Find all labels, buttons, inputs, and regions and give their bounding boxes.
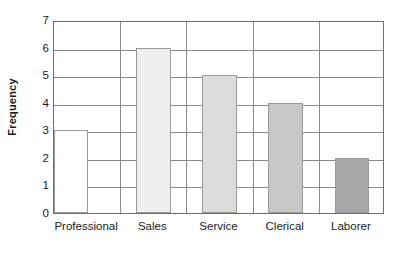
y-tick-label: 4 <box>31 98 49 110</box>
plot-area <box>53 21 384 214</box>
bar <box>202 75 236 213</box>
bar-chart: Frequency 01234567 ProfessionalSalesServ… <box>0 0 405 253</box>
x-tick-label: Service <box>199 217 237 235</box>
y-axis-title: Frequency <box>2 0 22 214</box>
bar <box>136 48 170 213</box>
bar-series <box>54 22 383 213</box>
y-tick-label: 7 <box>31 15 49 27</box>
bar <box>268 103 302 213</box>
y-tick-label: 1 <box>31 181 49 193</box>
y-tick-label: 5 <box>31 70 49 82</box>
y-tick-label: 6 <box>31 43 49 55</box>
y-tick-label: 0 <box>31 208 49 220</box>
y-tick-label: 3 <box>31 126 49 138</box>
y-axis-title-label: Frequency <box>6 78 18 135</box>
y-axis-tick-labels: 01234567 <box>28 0 49 253</box>
y-tick-label: 2 <box>31 153 49 165</box>
bar <box>54 130 88 213</box>
x-tick-label: Professional <box>54 217 117 235</box>
x-axis-tick-labels: ProfessionalSalesServiceClericalLaborer <box>53 217 384 239</box>
x-tick-label: Sales <box>138 217 167 235</box>
bar <box>335 158 369 213</box>
x-tick-label: Laborer <box>331 217 371 235</box>
x-tick-label: Clerical <box>266 217 304 235</box>
